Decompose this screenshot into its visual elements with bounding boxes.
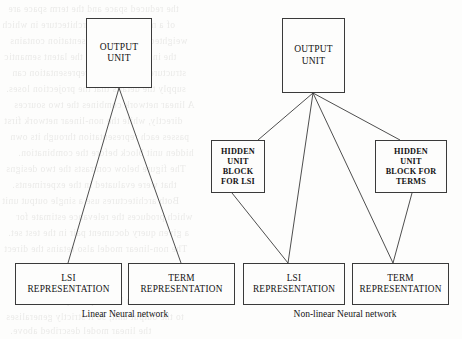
linear-lsi-representation-label: LSIREPRESENTATION xyxy=(27,273,109,295)
hidden-unit-block-for-lsi-node[interactable]: HIDDENUNITBLOCKFOR LSI xyxy=(211,140,265,193)
edge-hidden-terms-to-term xyxy=(393,193,412,263)
linear-output-unit-label: OUTPUTUNIT xyxy=(100,42,139,64)
linear-term-representation-label: TERMREPRESENTATION xyxy=(140,273,222,295)
hidden-unit-block-for-terms-label: HIDDENUNITBLOCK FORTERMS xyxy=(386,147,437,187)
edge-linear-output-to-lsi xyxy=(68,88,119,263)
hidden-unit-block-for-terms-node[interactable]: HIDDENUNITBLOCK FORTERMS xyxy=(375,140,447,193)
edge-linear-output-to-term xyxy=(119,88,181,263)
edge-nonlinear-output-to-hidden-lsi xyxy=(258,93,313,140)
edge-nonlinear-output-to-hidden-terms xyxy=(313,93,400,140)
nonlinear-output-unit-node[interactable]: OUTPUTUNIT xyxy=(282,18,345,93)
linear-lsi-representation-node[interactable]: LSIREPRESENTATION xyxy=(15,263,122,305)
hidden-unit-block-for-lsi-label: HIDDENUNITBLOCKFOR LSI xyxy=(221,147,255,187)
nonlinear-term-representation-label: TERMREPRESENTATION xyxy=(359,273,441,295)
nonlinear-output-unit-label: OUTPUTUNIT xyxy=(294,44,333,66)
linear-output-unit-node[interactable]: OUTPUTUNIT xyxy=(86,18,152,88)
nonlinear-network-caption: Non-linear Neural network xyxy=(255,309,435,319)
edge-nonlinear-output-to-lsi-direct xyxy=(288,93,313,263)
nonlinear-term-representation-node[interactable]: TERMREPRESENTATION xyxy=(352,263,449,305)
neural-network-architecture-figure: the reduced space and the term space are… xyxy=(0,0,462,339)
linear-network-caption: Linear Neural network xyxy=(45,309,205,319)
linear-term-representation-node[interactable]: TERMREPRESENTATION xyxy=(128,263,235,305)
edge-hidden-lsi-to-lsi xyxy=(232,193,288,263)
nonlinear-lsi-representation-label: LSIREPRESENTATION xyxy=(253,273,335,295)
nonlinear-lsi-representation-node[interactable]: LSIREPRESENTATION xyxy=(243,263,345,305)
